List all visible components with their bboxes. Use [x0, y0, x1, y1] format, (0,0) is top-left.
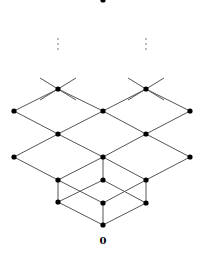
- ellipsis-dot: [145, 48, 147, 50]
- bottom-label: 0: [100, 235, 107, 246]
- node-b2: [100, 108, 105, 113]
- ellipsis-dot: [57, 38, 59, 40]
- edge: [146, 89, 190, 111]
- nodes: [11, 0, 192, 228]
- edge: [14, 111, 58, 134]
- node-f1: [55, 199, 60, 204]
- edge: [103, 134, 146, 157]
- node-e1: [55, 177, 60, 182]
- ellipsis-dot: [145, 43, 147, 45]
- node-f2: [100, 200, 105, 205]
- node-b1: [11, 108, 16, 113]
- node-d1: [11, 154, 16, 159]
- edge: [146, 111, 190, 134]
- vertical-ellipsis: [57, 38, 147, 50]
- node-top: [100, 0, 105, 3]
- node-f3: [143, 200, 148, 205]
- ellipsis-dot: [57, 48, 59, 50]
- edge: [103, 111, 146, 134]
- edge: [14, 89, 58, 111]
- edge: [103, 89, 146, 111]
- edge: [14, 134, 58, 157]
- node-c2: [143, 131, 148, 136]
- edge: [146, 157, 190, 180]
- edge: [14, 157, 58, 180]
- edge: [58, 134, 103, 157]
- lattice-diagram: 0: [0, 0, 201, 254]
- node-c1: [55, 131, 60, 136]
- edge: [58, 202, 103, 225]
- edge: [58, 89, 103, 111]
- node-e2: [100, 177, 105, 182]
- node-b3: [187, 108, 192, 113]
- ellipsis-dot: [57, 43, 59, 45]
- edge: [103, 157, 146, 180]
- edge: [103, 203, 146, 225]
- node-a2: [143, 86, 148, 91]
- node-d2: [100, 154, 105, 159]
- node-e3: [143, 177, 148, 182]
- node-zero: [100, 222, 105, 227]
- edge: [58, 111, 103, 134]
- node-d3: [187, 154, 192, 159]
- node-a1: [55, 86, 60, 91]
- edge: [58, 157, 103, 180]
- edge: [146, 134, 190, 157]
- ellipsis-dot: [145, 38, 147, 40]
